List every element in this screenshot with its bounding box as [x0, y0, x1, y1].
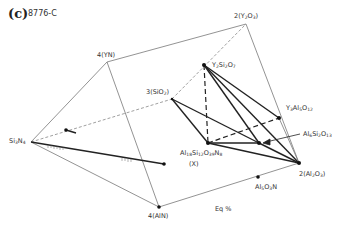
point-al5o3n: [256, 175, 260, 179]
point-y3al5o12: [277, 116, 281, 120]
tie-yag-al2o3: [279, 118, 299, 163]
label-x-tag: (X): [189, 161, 199, 168]
edge-aln-al2o3: [159, 163, 299, 207]
tie-mullite-al2o3: [259, 143, 299, 163]
phase-diagram-prism: [0, 0, 339, 229]
prism-frame: [31, 24, 299, 207]
label-y2si2o7: Y2Si2O7: [212, 62, 236, 70]
label-al2o3: 2(Al2O3): [299, 171, 325, 179]
point-x-phase: [206, 141, 210, 145]
label-x-phase: Al18Si12O39N8: [180, 150, 222, 158]
point-sio2: [171, 98, 173, 100]
hidden-edges: [31, 24, 246, 142]
edge-si3n4-sio2: [31, 99, 172, 142]
label-yn: 4(YN): [97, 52, 115, 59]
tie-y2si2o7-x: [204, 65, 208, 143]
label-sio2: 3(SiO2): [146, 89, 169, 97]
edge-yn-si3n4: [31, 62, 107, 142]
label-al5o3n: Al5O3N: [255, 184, 277, 192]
point-aln: [157, 205, 161, 209]
tie-sio2-mullite: [172, 99, 259, 143]
label-al6si2o13: Al6Si2O13: [303, 131, 332, 139]
tie-sio2-x: [172, 99, 208, 143]
tie-lines: [31, 65, 299, 164]
axis-note: Eq %: [215, 206, 231, 213]
point-al6si2o13: [257, 141, 261, 145]
label-aln: 4(AlN): [148, 213, 168, 220]
arrow-al6si2o13: [263, 134, 300, 145]
tie-y2si2o7-yag: [204, 65, 279, 118]
point-near-si3n4: [64, 128, 68, 132]
edge-si3n4-aln: [31, 142, 159, 207]
panel-letter: (c): [8, 6, 28, 21]
edge-yn-y2o3: [107, 24, 246, 62]
label-y3al5o12: Y3Al5O12: [286, 105, 313, 113]
label-y2o3: 2(Y2O3): [234, 13, 258, 21]
edge-y2o3-al2o3: [246, 24, 299, 163]
tie-y2si2o7-mullite: [204, 65, 259, 143]
point-al2o3: [297, 161, 301, 165]
label-si3n4: Si3N4: [9, 138, 26, 146]
point-line-end: [162, 162, 166, 166]
point-y2si2o7: [202, 63, 206, 67]
sample-id: 8776-C: [28, 9, 57, 18]
edge-yn-aln: [107, 62, 159, 207]
